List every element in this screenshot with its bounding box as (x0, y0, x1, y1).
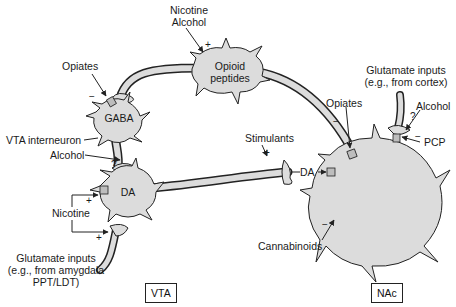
opioid-label-line1: Opioid (206, 60, 254, 72)
axon-da-nac (150, 160, 292, 188)
stimulants-label: Stimulants (245, 132, 294, 144)
opioid-label-line2: peptides (206, 72, 254, 84)
alcohol-left-label: Alcohol (50, 149, 84, 161)
region-nac-box: NAc (371, 283, 403, 303)
sign-nicotine-lower: + (96, 233, 102, 243)
opiates-left-label: Opiates (62, 60, 98, 72)
glutamate-right-line1: Glutamate inputs (356, 64, 456, 76)
cannabinoids-label: Cannabinoids (258, 240, 322, 252)
sign-cannabinoids: − (322, 220, 328, 230)
da-release-label: DA (300, 166, 315, 178)
sign-pcp: − (415, 132, 421, 142)
sign-nicotine-upper: + (86, 196, 92, 206)
nicotine-left-label: Nicotine (52, 207, 90, 219)
sign-nicotine-alcohol-top: + (205, 40, 211, 50)
gaba-label: GABA (104, 112, 134, 124)
sign-alcohol-right: ? (410, 112, 416, 122)
alcohol-right-label: Alcohol (416, 100, 450, 112)
sign-opiates-right: − (333, 117, 339, 127)
glutamate-left-line2: (e.g., from amygdala (2, 264, 110, 276)
vta-interneuron-label: VTA interneuron (6, 134, 81, 146)
da-label: DA (116, 186, 140, 198)
opiates-right-label: Opiates (326, 97, 362, 109)
sign-alcohol-left: ? (111, 160, 117, 170)
sign-stimulants: + (264, 148, 270, 158)
sign-opiates-left: − (89, 92, 95, 102)
glutamate-left-line3: PPT/LDT) (6, 276, 106, 288)
pcp-label: PCP (424, 136, 446, 148)
region-vta-box: VTA (145, 283, 177, 303)
glutamate-left-line1: Glutamate inputs (6, 252, 106, 264)
nicotine-top-label: Nicotine (164, 4, 214, 16)
glutamate-right-line2: (e.g., from cortex) (356, 76, 456, 88)
alcohol-top-label: Alcohol (164, 16, 214, 28)
